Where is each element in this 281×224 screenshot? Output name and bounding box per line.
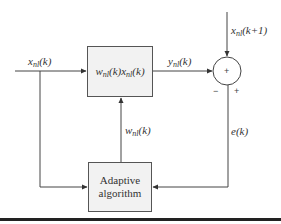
input-signal-label: xnl(k): [28, 56, 51, 69]
adaptive-algorithm-block: Adaptive algorithm: [88, 162, 152, 212]
sum-plus-sign: +: [234, 86, 239, 96]
adaptive-block-line2: algorithm: [99, 187, 142, 200]
filter-block-label: wnl(k)xnl(k): [95, 65, 144, 79]
input-branch-line: [40, 71, 87, 187]
desired-signal-label: xnl(k+1): [231, 25, 267, 38]
adaptive-block-line1: Adaptive: [99, 174, 142, 187]
bottom-rule: [0, 218, 281, 221]
error-signal-line: [153, 85, 228, 187]
weights-signal-label: wnl(k): [125, 125, 151, 138]
filter-block: wnl(k)xnl(k): [87, 46, 153, 97]
error-signal-label: e(k): [231, 126, 248, 137]
sum-center-plus-sign: +: [224, 66, 229, 76]
output-signal-label: ynl(k): [168, 56, 191, 69]
sum-minus-sign: −: [213, 86, 218, 96]
